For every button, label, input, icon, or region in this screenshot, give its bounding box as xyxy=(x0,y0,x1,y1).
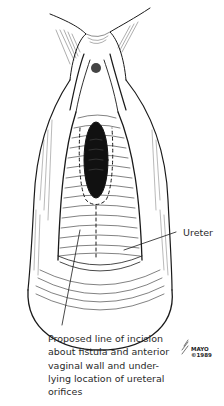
perineum-hatching xyxy=(36,256,164,310)
right-labium-flap xyxy=(126,80,172,290)
ureter-label: Ureter xyxy=(183,226,213,239)
inner-fold-left xyxy=(70,54,84,110)
ureter-leader-line xyxy=(124,232,176,250)
incision-leader-line xyxy=(62,230,80,325)
fistula-opening xyxy=(84,122,108,198)
mayo-credit: MAYO ©1989 xyxy=(191,346,212,358)
drawing xyxy=(28,8,188,354)
right-vaginal-wall xyxy=(118,112,142,260)
upper-right-labium xyxy=(110,8,150,80)
incision-label: Proposed line of incision about fistula … xyxy=(48,332,178,398)
credit-copyright: ©1989 xyxy=(191,352,212,358)
